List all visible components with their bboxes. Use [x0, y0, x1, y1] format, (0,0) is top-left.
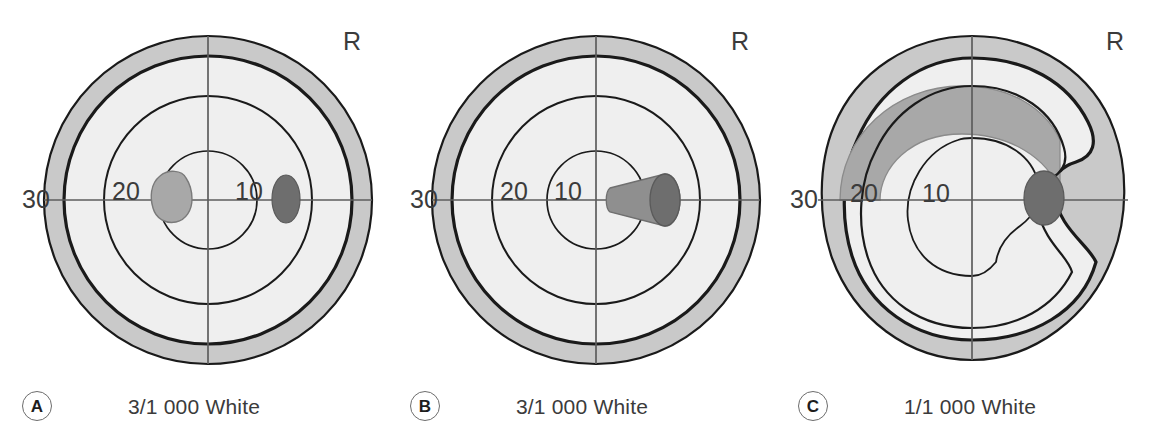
ring-label-10-c: 10 [922, 179, 950, 207]
panel-a-chart: 30 20 10 R [0, 0, 388, 370]
panel-b: 30 20 10 R B 3/1 000 White [388, 0, 776, 437]
central-scotoma-a [151, 171, 192, 222]
ring-label-30-c: 30 [790, 185, 818, 213]
panel-caption-c: 1/1 000 White [776, 395, 1164, 419]
eye-label-b: R [731, 27, 749, 55]
eye-label-a: R [343, 27, 361, 55]
ring-label-10-b: 10 [554, 177, 582, 205]
panel-c-chart: 30 20 10 R [776, 0, 1164, 370]
ring-label-30-a: 30 [22, 185, 50, 213]
blind-spot-a [272, 175, 300, 223]
panel-c-footer: C 1/1 000 White [776, 385, 1164, 431]
blind-spot-b [650, 174, 680, 226]
panel-caption-b: 3/1 000 White [388, 395, 776, 419]
ring-label-20-b: 20 [500, 177, 528, 205]
ring-label-30-b: 30 [410, 185, 438, 213]
eye-label-c: R [1106, 27, 1124, 55]
blind-spot-c [1024, 171, 1064, 225]
ring-label-20-c: 20 [850, 179, 878, 207]
panel-a-footer: A 3/1 000 White [0, 385, 388, 431]
ring-label-20-a: 20 [112, 177, 140, 205]
panel-caption-a: 3/1 000 White [0, 395, 388, 419]
ring-label-10-a: 10 [235, 177, 263, 205]
visual-field-figure: 30 20 10 R A 3/1 000 White [0, 0, 1164, 437]
panel-a: 30 20 10 R A 3/1 000 White [0, 0, 388, 437]
panel-b-footer: B 3/1 000 White [388, 385, 776, 431]
panel-c: 30 20 10 R C 1/1 000 White [776, 0, 1164, 437]
panel-b-chart: 30 20 10 R [388, 0, 776, 370]
